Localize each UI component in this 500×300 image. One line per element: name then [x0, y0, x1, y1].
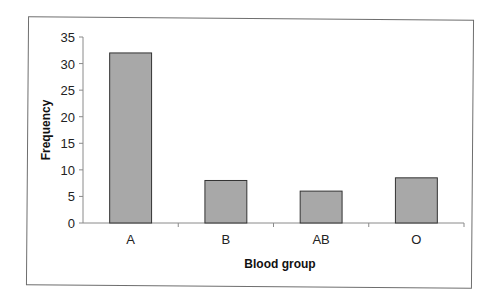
y-tick-label: 0: [68, 216, 75, 231]
y-tick-label: 35: [61, 30, 75, 45]
bar-o: [395, 178, 437, 223]
x-tick-label: O: [411, 232, 421, 247]
bar-chart: 05101520253035 ABABO Blood group Frequen…: [0, 0, 500, 300]
y-tick-label: 20: [61, 110, 75, 125]
bar-ab: [300, 191, 342, 223]
x-axis-title: Blood group: [244, 257, 315, 271]
y-tick-label: 10: [61, 163, 75, 178]
y-tick-label: 25: [61, 83, 75, 98]
bar-b: [205, 180, 247, 223]
bar-a: [110, 53, 152, 223]
x-tick-label: AB: [312, 232, 329, 247]
y-tick-label: 30: [61, 57, 75, 72]
y-tick-label: 15: [61, 136, 75, 151]
bars: [110, 53, 438, 223]
y-tick-label: 5: [68, 189, 75, 204]
y-axis-title: Frequency: [39, 99, 53, 160]
y-axis-ticks: 05101520253035: [61, 30, 83, 231]
x-axis-ticks: ABABO: [126, 223, 464, 247]
x-tick-label: B: [222, 232, 231, 247]
x-tick-label: A: [126, 232, 135, 247]
